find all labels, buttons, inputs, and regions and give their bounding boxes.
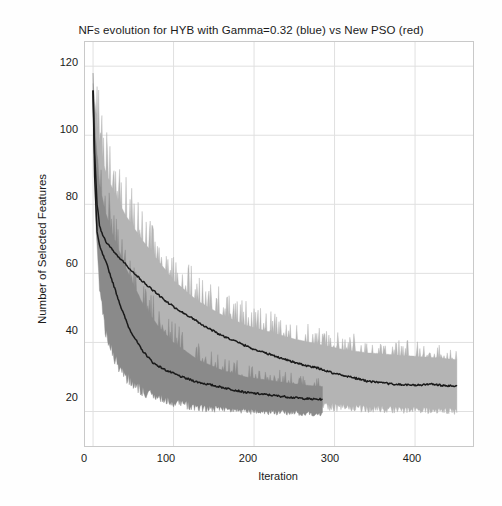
ytick-label-60: 60 [38, 257, 78, 269]
plot-svg [85, 42, 473, 446]
y-axis-tick-labels: 120 100 80 60 40 20 [30, 0, 78, 506]
ytick-label-120: 120 [38, 56, 78, 68]
chart-figure: NFs evolution for HYB with Gamma=0.32 (b… [0, 0, 502, 506]
xtick-label-300: 300 [321, 452, 339, 464]
xtick-label-0: 0 [81, 452, 87, 464]
ytick-label-80: 80 [38, 190, 78, 202]
x-axis-label: Iteration [84, 470, 472, 482]
ytick-label-40: 40 [38, 324, 78, 336]
xtick-label-400: 400 [403, 452, 421, 464]
plot-area [84, 41, 474, 447]
xtick-label-100: 100 [157, 452, 175, 464]
ytick-label-100: 100 [38, 123, 78, 135]
xtick-label-200: 200 [239, 452, 257, 464]
ytick-label-20: 20 [38, 391, 78, 403]
